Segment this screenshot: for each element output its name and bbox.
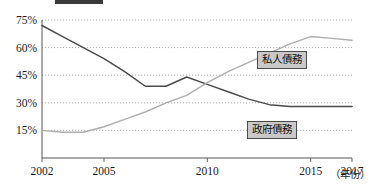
y-tick-label-60: 60% <box>16 42 38 54</box>
legend-government-debt: 政府債務 <box>247 121 297 139</box>
line-chart-svg: 15%30%45%60%75% 20022005201020152017 （年份… <box>0 0 378 189</box>
x-tick-labels-group: 20022005201020152017 <box>31 165 364 177</box>
y-tick-labels-group: 15%30%45%60%75% <box>16 14 38 136</box>
data-series-group <box>42 26 352 133</box>
y-tick-label-15: 15% <box>16 124 38 136</box>
y-tick-label-45: 45% <box>16 69 38 81</box>
x-tick-marks-group <box>42 158 352 162</box>
gridlines-group <box>42 20 352 130</box>
legend-private-debt: 私人債務 <box>257 51 307 69</box>
y-tick-label-75: 75% <box>16 14 38 26</box>
y-tick-label-30: 30% <box>16 97 38 109</box>
x-tick-label-2002: 2002 <box>31 165 54 177</box>
x-tick-label-2015: 2015 <box>299 165 322 177</box>
x-tick-label-2010: 2010 <box>196 165 219 177</box>
chart-container: 15%30%45%60%75% 20022005201020152017 （年份… <box>0 0 378 189</box>
x-axis-caption: （年份） <box>330 168 370 180</box>
x-tick-label-2005: 2005 <box>93 165 116 177</box>
